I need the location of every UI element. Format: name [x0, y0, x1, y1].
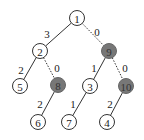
- node-label: 10: [121, 81, 133, 93]
- node-label: 8: [55, 80, 61, 92]
- node-label: 3: [87, 81, 93, 93]
- edge-label-10-4: 2: [107, 98, 113, 110]
- edge-2-8: [44, 58, 55, 79]
- tree-diagram: 302010212 12958310674: [0, 0, 144, 140]
- edge-8-6: [42, 92, 55, 116]
- node-3: 3: [83, 79, 98, 94]
- nodes-layer: 12958310674: [13, 11, 134, 130]
- node-1: 1: [70, 11, 85, 26]
- edge-label-8-6: 2: [37, 98, 43, 110]
- node-label: 1: [74, 13, 80, 25]
- edge-label-9-3: 1: [91, 62, 97, 74]
- edge-9-10: [112, 58, 122, 80]
- node-4: 4: [100, 115, 115, 130]
- edge-label-2-5: 2: [18, 64, 24, 76]
- edge-label-1-9: 0: [94, 26, 100, 38]
- edge-1-9: [82, 23, 104, 45]
- node-label: 7: [66, 117, 72, 129]
- node-7: 7: [62, 115, 77, 130]
- edge-label-2-8: 0: [54, 62, 60, 74]
- node-label: 5: [17, 81, 23, 93]
- edge-2-5: [24, 58, 37, 80]
- node-label: 4: [104, 117, 110, 129]
- edge-label-1-2: 3: [44, 28, 50, 40]
- node-10: 10: [119, 79, 134, 94]
- edge-labels-layer: 302010212: [18, 26, 128, 110]
- node-label: 6: [35, 117, 41, 129]
- node-6: 6: [31, 115, 46, 130]
- edge-label-9-10: 0: [122, 62, 128, 74]
- node-label: 9: [106, 46, 112, 58]
- node-label: 2: [37, 46, 43, 58]
- node-5: 5: [13, 79, 28, 94]
- node-8: 8: [51, 78, 66, 93]
- node-2: 2: [33, 44, 48, 59]
- node-9: 9: [102, 44, 117, 59]
- edge-label-3-7: 1: [70, 98, 76, 110]
